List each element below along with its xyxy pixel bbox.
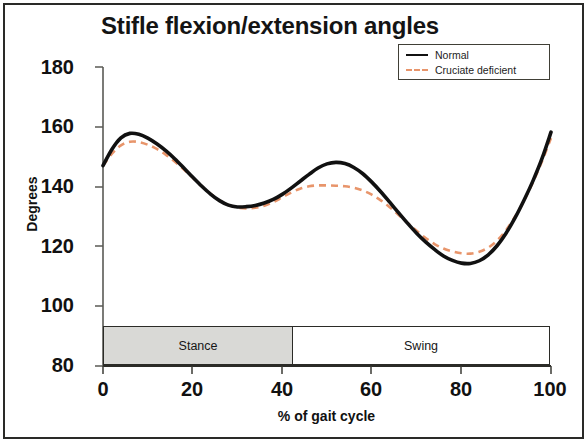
phase-label-swing: Swing xyxy=(404,339,438,353)
chart-canvas: Stifle flexion/extension angles Normal C… xyxy=(0,0,587,442)
plot-svg xyxy=(0,0,587,442)
chart-screenshot: Stifle flexion/extension angles Normal C… xyxy=(0,0,587,442)
phase-label-stance: Stance xyxy=(179,339,218,353)
x-axis-ticks xyxy=(103,366,551,374)
phase-segment-stance: Stance xyxy=(104,327,293,364)
gait-phase-bar: Stance Swing xyxy=(103,326,550,365)
phase-segment-swing: Swing xyxy=(293,327,549,364)
series-line-normal xyxy=(103,132,551,263)
y-axis-ticks xyxy=(95,67,103,366)
